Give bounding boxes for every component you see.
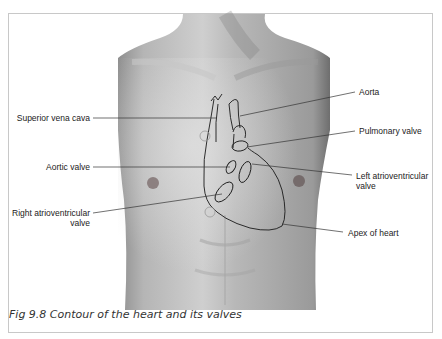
label-pulmonary-valve: Pulmonary valve: [359, 126, 422, 136]
label-aortic-valve: Aortic valve: [10, 162, 90, 172]
label-right-av-line2: valve: [10, 218, 90, 228]
label-right-av-line1: Right atrioventricular: [10, 208, 90, 218]
left-nipple: [147, 177, 159, 189]
label-superior-vena-cava: Superior vena cava: [10, 113, 90, 123]
label-right-av-valve: Right atrioventricular valve: [10, 208, 90, 228]
label-left-av-line2: valve: [356, 181, 428, 191]
right-nipple: [293, 175, 305, 187]
figure-caption: Fig 9.8 Contour of the heart and its val…: [9, 308, 242, 321]
label-left-av-line1: Left atrioventricular: [356, 171, 428, 181]
label-apex-of-heart: Apex of heart: [348, 228, 399, 238]
label-aorta: Aorta: [359, 87, 379, 97]
label-left-av-valve: Left atrioventricular valve: [356, 171, 428, 191]
